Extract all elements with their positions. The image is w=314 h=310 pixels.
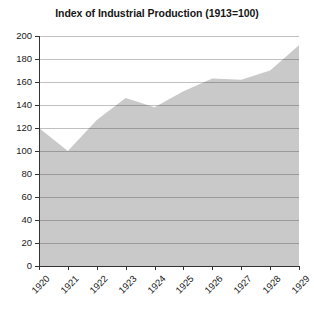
y-axis-tick-label: 80: [2, 169, 32, 179]
y-axis-tick-label: 0: [2, 261, 32, 271]
area-series-industrial-production: [39, 45, 299, 266]
chart-container: Index of Industrial Production (1913=100…: [0, 0, 314, 310]
y-axis-tick-label: 60: [2, 192, 32, 202]
y-axis-tick-label: 20: [2, 238, 32, 248]
y-axis-tick-label: 180: [2, 54, 32, 64]
y-axis-tick-label: 120: [2, 123, 32, 133]
y-axis-tick-label: 160: [2, 77, 32, 87]
y-axis-tick-label: 140: [2, 100, 32, 110]
chart-plot-area: [0, 0, 314, 310]
y-axis-tick-marks: [35, 37, 39, 267]
y-axis-tick-label: 40: [2, 215, 32, 225]
y-axis-tick-label: 200: [2, 31, 32, 41]
y-axis-tick-label: 100: [2, 146, 32, 156]
